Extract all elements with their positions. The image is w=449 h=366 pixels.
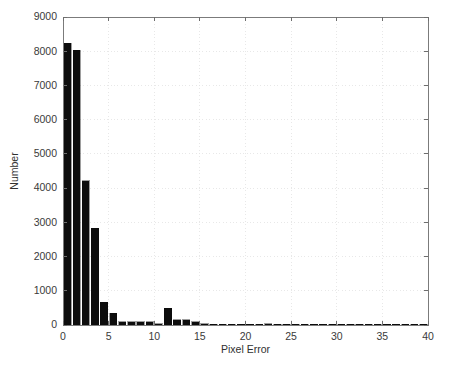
histogram-bar xyxy=(100,302,107,325)
histogram-bar xyxy=(164,308,171,325)
x-tick-label: 5 xyxy=(106,330,112,342)
histogram-bar xyxy=(137,322,144,325)
x-tick-label: 40 xyxy=(422,330,434,342)
x-tick-label: 30 xyxy=(331,330,343,342)
x-tick-label: 25 xyxy=(285,330,297,342)
x-axis-title: Pixel Error xyxy=(221,343,271,355)
histogram-bar xyxy=(183,320,190,325)
x-tick-label: 0 xyxy=(60,330,66,342)
y-tick-label: 2000 xyxy=(34,250,58,262)
histogram-figure: 0100020003000400050006000700080009000 05… xyxy=(0,0,449,366)
y-tick-label: 9000 xyxy=(34,10,58,22)
y-tick-label: 7000 xyxy=(34,79,58,91)
y-tick-label: 1000 xyxy=(34,284,58,296)
y-tick-label: 4000 xyxy=(34,181,58,193)
histogram-bar xyxy=(91,228,98,325)
y-tick-label: 6000 xyxy=(34,113,58,125)
histogram-bar xyxy=(82,181,89,325)
x-tick-label: 10 xyxy=(148,330,160,342)
y-tick-label: 8000 xyxy=(34,45,58,57)
pixel-error-histogram-chart: 0100020003000400050006000700080009000 05… xyxy=(0,0,449,366)
y-tick-label: 0 xyxy=(51,318,57,330)
x-tick-label: 20 xyxy=(240,330,252,342)
y-tick-label: 5000 xyxy=(34,147,58,159)
x-tick-label: 35 xyxy=(377,330,389,342)
y-tick-label: 3000 xyxy=(34,216,58,228)
histogram-bar xyxy=(73,50,80,325)
y-axis-title: Number xyxy=(8,152,20,190)
histogram-bar xyxy=(110,313,117,325)
histogram-bar xyxy=(173,320,180,325)
x-tick-label: 15 xyxy=(194,330,206,342)
